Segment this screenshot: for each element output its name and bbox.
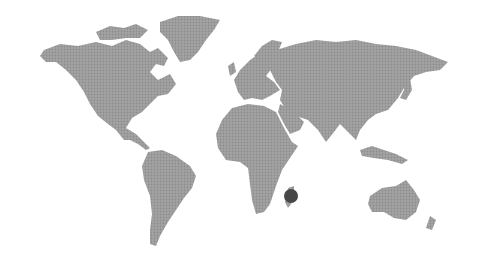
british-isles xyxy=(228,62,236,76)
world-map xyxy=(0,0,482,262)
arctic-islands xyxy=(96,24,148,40)
continent-australia xyxy=(368,180,420,220)
continent-north-america xyxy=(40,40,176,140)
new-zealand xyxy=(426,216,436,230)
continent-south-america xyxy=(142,150,196,246)
location-marker[interactable] xyxy=(284,189,298,203)
southeast-asia-islands xyxy=(360,146,408,164)
continent-greenland xyxy=(160,16,220,62)
world-map-svg xyxy=(0,0,482,262)
